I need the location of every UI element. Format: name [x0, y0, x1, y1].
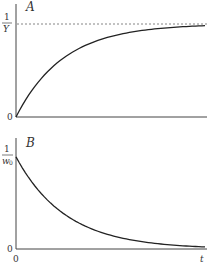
y-tick-one-a: 1	[4, 12, 10, 22]
x-axis-label-t: t	[200, 254, 204, 264]
curve-b	[16, 157, 205, 247]
chart-figure: A 1 Y 0 B 1 w 0 0 0 t	[0, 0, 207, 268]
y-tick-zero-b: 0	[7, 244, 13, 254]
panel-b-label: B	[25, 136, 35, 150]
panel-a: A 1 Y 0	[2, 0, 207, 122]
panel-b: B 1 w 0 0 0 t	[2, 136, 207, 264]
panel-a-label: A	[25, 0, 35, 14]
y-tick-Y: Y	[3, 24, 10, 34]
curve-a	[16, 26, 205, 117]
x-tick-zero: 0	[13, 254, 19, 264]
y-tick-zero-a: 0	[7, 112, 13, 122]
y-tick-one-b: 1	[4, 144, 10, 154]
y-tick-w-subscript: 0	[9, 159, 13, 166]
